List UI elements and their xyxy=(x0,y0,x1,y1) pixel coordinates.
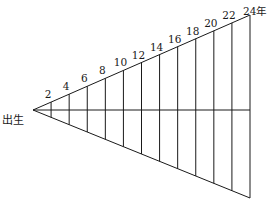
age-tick-label: 14 xyxy=(150,41,164,53)
age-tick-label: 12 xyxy=(132,49,145,61)
growth-triangle-diagram: 246810121416182022 出生 24年 xyxy=(0,0,277,223)
age-tick-label: 20 xyxy=(204,17,217,29)
origin-label: 出生 xyxy=(2,113,24,127)
age-tick-label: 10 xyxy=(114,56,127,68)
age-tick-label: 18 xyxy=(186,25,199,37)
age-tick-label: 16 xyxy=(168,33,182,45)
age-tick-label: 4 xyxy=(63,80,70,92)
end-label: 24年 xyxy=(243,5,266,17)
age-tick-label: 8 xyxy=(99,64,106,76)
age-tick-label: 6 xyxy=(81,72,88,84)
age-tick-label: 22 xyxy=(222,9,235,21)
age-tick-label: 2 xyxy=(45,88,52,100)
